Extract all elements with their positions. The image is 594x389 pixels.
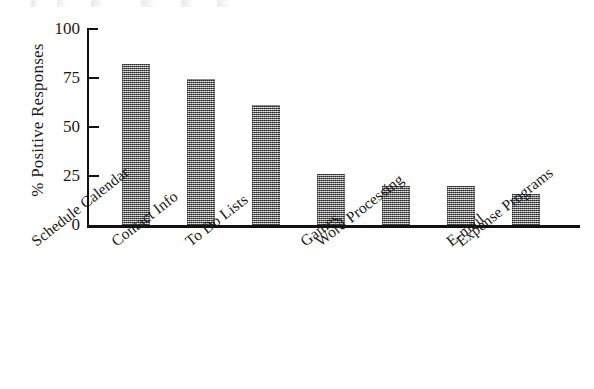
bar-contact-info — [187, 79, 215, 225]
y-tick-label-50: 50 — [38, 118, 80, 135]
bar-chart: % Positive Responses 100 75 50 25 0 Sche… — [0, 0, 594, 389]
bar-to-do-lists — [252, 105, 280, 225]
cropped-caption-artifact — [30, 0, 260, 7]
y-tick-label-100: 100 — [38, 20, 80, 37]
y-tick-label-75: 75 — [38, 69, 80, 86]
y-tick-label-25: 25 — [38, 167, 80, 184]
bar-schedule-calendar — [122, 64, 150, 226]
